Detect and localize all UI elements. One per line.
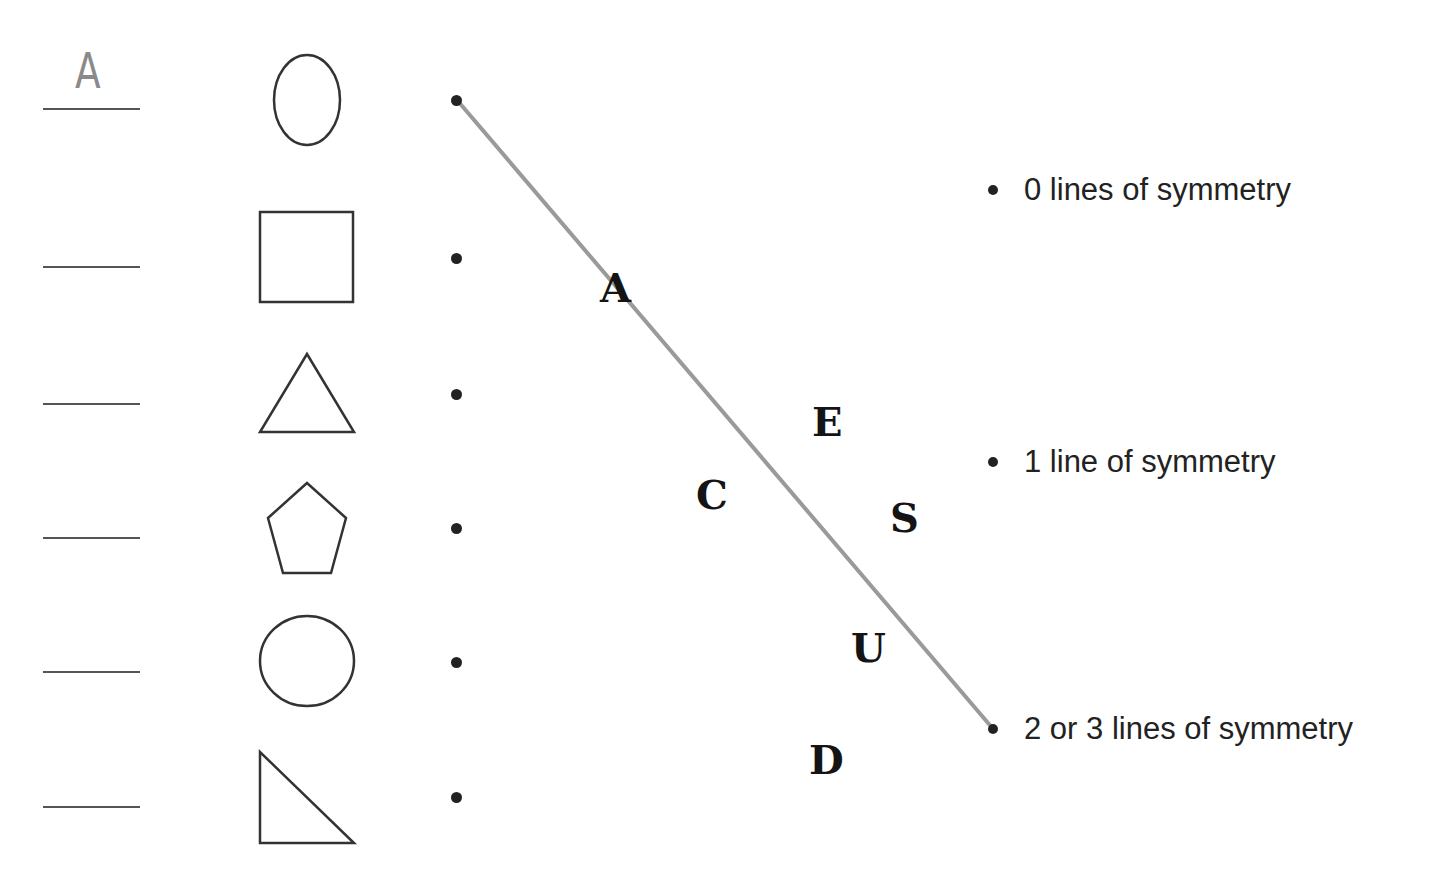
answer-line-1[interactable] xyxy=(43,108,140,110)
oval-shape xyxy=(274,55,340,145)
letter-c: C xyxy=(696,475,728,515)
category-label: 0 lines of symmetry xyxy=(1024,172,1291,208)
answer-line-5[interactable] xyxy=(43,671,140,673)
right-triangle-shape xyxy=(260,752,354,843)
answer-line-3[interactable] xyxy=(43,403,140,405)
letter-a: A xyxy=(600,268,631,308)
pentagon-shape xyxy=(268,483,346,573)
bullet-dot-icon xyxy=(988,185,998,195)
category-label: 1 line of symmetry xyxy=(1024,444,1276,480)
match-dot-5[interactable] xyxy=(451,657,462,668)
match-dot-3[interactable] xyxy=(451,389,462,400)
bullet-dot-icon xyxy=(988,457,998,467)
match-dot-2[interactable] xyxy=(451,253,462,264)
answer-handwritten-1: A xyxy=(75,46,101,96)
letter-u: U xyxy=(851,628,886,668)
answer-line-6[interactable] xyxy=(43,806,140,808)
match-dot-6[interactable] xyxy=(451,792,462,803)
answer-line-2[interactable] xyxy=(43,266,140,268)
bullet-dot-icon xyxy=(988,724,998,734)
letter-e: E xyxy=(812,402,843,442)
letter-s: S xyxy=(890,498,919,538)
category-2-or-3-lines[interactable]: 2 or 3 lines of symmetry xyxy=(988,711,1353,747)
letter-d: D xyxy=(809,740,844,780)
circle-shape xyxy=(260,616,354,706)
match-dot-4[interactable] xyxy=(451,523,462,534)
equilateral-triangle-shape xyxy=(260,354,354,432)
answer-line-4[interactable] xyxy=(43,537,140,539)
square-shape xyxy=(260,212,353,302)
match-connector-line xyxy=(457,100,994,730)
match-dot-1[interactable] xyxy=(451,95,462,106)
category-1-line[interactable]: 1 line of symmetry xyxy=(988,444,1276,480)
category-0-lines[interactable]: 0 lines of symmetry xyxy=(988,172,1291,208)
category-label: 2 or 3 lines of symmetry xyxy=(1024,711,1353,747)
